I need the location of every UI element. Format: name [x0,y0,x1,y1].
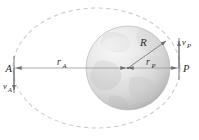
label-periapsis-point: P [182,63,190,74]
label-apoapsis-point: A [5,63,13,74]
label-periapsis-velocity: v [182,37,186,47]
label-periapsis-velocity-subscript: P [186,42,191,49]
label-apoapsis-velocity: v [3,81,7,91]
label-periapsis-radius-subscript: P [151,62,156,69]
label-periapsis-radius: r [146,57,150,67]
label-apoapsis-radius-subscript: A [62,62,67,69]
label-planet-radius: R [139,36,147,48]
label-apoapsis-radius: r [57,57,61,67]
orbit-diagram-figure: A P r A r P R v A v P [0,0,199,140]
label-apoapsis-velocity-subscript: A [7,86,12,93]
